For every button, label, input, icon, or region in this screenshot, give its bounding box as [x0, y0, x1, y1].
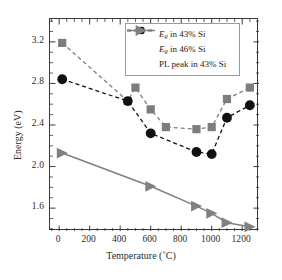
y-tick-label: 3.2 [18, 35, 44, 45]
data-point [222, 217, 233, 228]
legend-label: Eg in 46% Si [159, 45, 206, 55]
y-tick-label: 2.8 [18, 76, 44, 86]
data-point [207, 149, 217, 159]
y-tick-label: 2.4 [18, 118, 44, 128]
chart-legend: Eg in 43% SiEg in 46% SiPL peak in 43% S… [125, 23, 240, 76]
legend-symbol-triangle-solid-icon [129, 58, 159, 71]
series-triangle-right [57, 148, 256, 233]
data-point [192, 147, 202, 157]
series-circle [57, 74, 254, 159]
data-point [245, 100, 255, 110]
legend-item: Eg in 46% Si [129, 42, 235, 57]
data-point [123, 96, 133, 106]
data-point [223, 95, 231, 103]
y-tick-label: 2.0 [18, 160, 44, 170]
x-tick-label: 1200 [221, 234, 261, 244]
figure: Energy (eV) Temperature (˚C) 1.62.02.42.… [0, 0, 282, 280]
legend-symbol-circle-dashed-icon [129, 43, 159, 56]
data-point [222, 113, 232, 123]
data-point [208, 123, 216, 131]
data-point [191, 201, 202, 212]
data-point [192, 125, 200, 133]
data-point [147, 105, 155, 113]
legend-item: PL peak in 43% Si [129, 57, 235, 72]
data-point [57, 74, 67, 84]
data-point [246, 83, 254, 91]
data-point [131, 83, 139, 91]
legend-label: PL peak in 43% Si [159, 60, 226, 69]
data-point [57, 148, 68, 159]
y-tick-label: 1.6 [18, 201, 44, 211]
data-point [58, 39, 66, 47]
data-point [206, 208, 217, 219]
legend-label: Eg in 43% Si [159, 30, 206, 40]
x-axis-title: Temperature (˚C) [0, 250, 282, 261]
data-point [146, 128, 156, 138]
data-point [145, 181, 156, 192]
data-point [162, 123, 170, 131]
